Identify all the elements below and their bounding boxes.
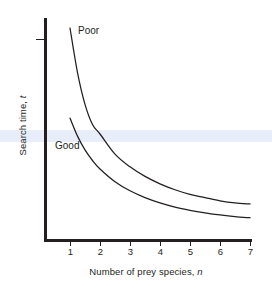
chart-figure: Search time, t Number of prey species, n… [0, 0, 272, 291]
x-tick-label-3: 3 [123, 246, 139, 257]
x-tick-label-7: 7 [243, 246, 259, 257]
x-axis-label-variable: n [197, 266, 202, 277]
x-tick-label-6: 6 [213, 246, 229, 257]
x-axis-label-text: Number of prey species, [89, 266, 197, 277]
y-axis-label-variable: t [17, 96, 28, 99]
curve-label-poor: Poor [78, 25, 99, 36]
x-tick-label-4: 4 [153, 246, 169, 257]
y-axis-label-text: Search time, [17, 98, 28, 155]
curve-label-good: Good [55, 140, 79, 151]
curve-poor [70, 28, 250, 204]
x-tick-label-5: 5 [183, 246, 199, 257]
x-tick-label-2: 2 [93, 246, 109, 257]
y-axis-label: Search time, t [17, 71, 28, 181]
x-tick-label-1: 1 [63, 246, 79, 257]
axes-group [36, 18, 252, 241]
x-axis-label: Number of prey species, n [30, 266, 262, 277]
curve-good [70, 118, 250, 218]
data-curves-group [70, 28, 250, 218]
